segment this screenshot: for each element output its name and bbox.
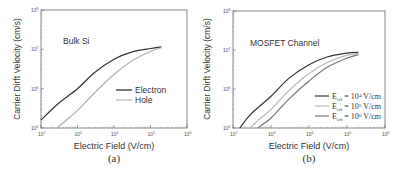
plot-frame bbox=[41, 10, 187, 128]
x-tick-label: 102 bbox=[230, 131, 238, 137]
caption: (a) bbox=[108, 152, 121, 165]
caption: (b) bbox=[303, 152, 316, 165]
legend-label: Eeff = 105 V/cm bbox=[332, 102, 382, 112]
legend-label: Eeff = 104 V/cm bbox=[332, 92, 382, 102]
y-axis-label: Carrier Dirft Velocity (cm/s) bbox=[202, 18, 212, 120]
x-axis-label: Electric Field (V/cm) bbox=[269, 141, 350, 151]
axis-ticks: 102103104105106105106107108 bbox=[31, 7, 192, 137]
chart-bulk-si: 102103104105106105106107108 Bulk Si Elec… bbox=[12, 7, 192, 165]
chart-mosfet-channel: 102103104105106105106107108 MOSFET Chann… bbox=[202, 8, 390, 165]
series-curve bbox=[41, 47, 161, 120]
y-tick-label: 108 bbox=[31, 7, 39, 13]
x-tick-label: 105 bbox=[148, 131, 156, 137]
legend: Electron Hole bbox=[116, 85, 166, 105]
x-tick-label: 105 bbox=[344, 131, 352, 137]
figure: 102103104105106105106107108 Bulk Si Elec… bbox=[0, 0, 407, 176]
x-tick-label: 103 bbox=[75, 131, 83, 137]
x-tick-label: 103 bbox=[268, 131, 276, 137]
y-tick-label: 106 bbox=[223, 86, 231, 92]
legend: Eeff = 104 V/cmEeff = 105 V/cmEeff = 106… bbox=[315, 92, 382, 122]
x-tick-label: 102 bbox=[38, 131, 46, 137]
annotation-text: Bulk Si bbox=[63, 36, 90, 46]
legend-label-hole: Hole bbox=[135, 95, 153, 105]
y-tick-label: 107 bbox=[31, 46, 39, 52]
legend-label-electron: Electron bbox=[135, 85, 166, 95]
x-tick-label: 104 bbox=[111, 131, 119, 137]
annotation-text: MOSFET Channel bbox=[250, 38, 319, 48]
x-tick-label: 104 bbox=[306, 131, 314, 137]
y-tick-label: 108 bbox=[223, 8, 231, 14]
y-axis-label: Carrier Dirft Velocity (cm/s) bbox=[12, 18, 22, 120]
y-tick-label: 107 bbox=[223, 47, 231, 53]
x-tick-label: 106 bbox=[184, 131, 192, 137]
x-tick-label: 106 bbox=[382, 131, 390, 137]
y-tick-label: 106 bbox=[31, 86, 39, 92]
x-axis-label: Electric Field (V/cm) bbox=[74, 141, 155, 151]
legend-label: Eeff = 106 V/cm bbox=[332, 112, 382, 122]
